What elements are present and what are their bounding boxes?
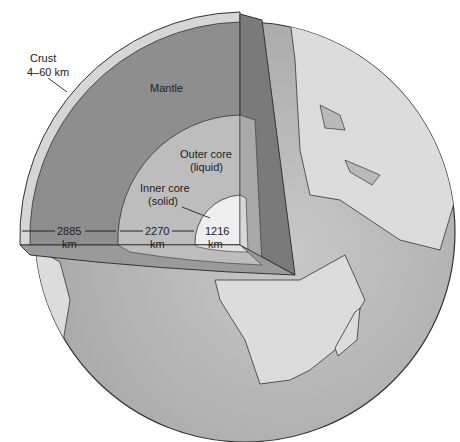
crust-range-label: 4–60 km bbox=[27, 66, 69, 78]
svg-text:km: km bbox=[208, 238, 223, 250]
svg-text:km: km bbox=[62, 238, 77, 250]
svg-text:km: km bbox=[150, 238, 165, 250]
svg-text:2270: 2270 bbox=[145, 225, 169, 237]
inner-core-label: Inner core bbox=[140, 182, 190, 194]
svg-text:2885: 2885 bbox=[57, 225, 81, 237]
mantle-label: Mantle bbox=[150, 82, 183, 94]
crust-label: Crust bbox=[30, 52, 56, 64]
svg-text:1216: 1216 bbox=[205, 225, 229, 237]
outer-core-state: (liquid) bbox=[190, 161, 223, 173]
earth-interior-diagram: Crust 4–60 km Mantle Outer core (liquid)… bbox=[0, 0, 460, 442]
diagram-svg: Crust 4–60 km Mantle Outer core (liquid)… bbox=[0, 0, 460, 442]
outer-core-label: Outer core bbox=[180, 148, 232, 160]
inner-core-state: (solid) bbox=[148, 195, 178, 207]
